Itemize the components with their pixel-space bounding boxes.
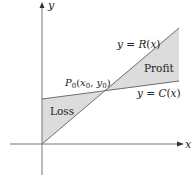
break-even-diagram: y x y = R(x) y = C(x) Profit Loss P0(x0,… <box>0 0 192 180</box>
y-axis-arrow-icon <box>40 2 45 8</box>
y-axis-label: y <box>47 0 55 12</box>
cost-label: y = C(x) <box>136 87 181 99</box>
revenue-label: y = R(x) <box>116 38 160 50</box>
profit-label: Profit <box>144 62 174 74</box>
x-axis-arrow-icon <box>177 142 184 147</box>
intersection-point-label: P0(x0, y0) <box>64 77 111 90</box>
x-axis-label: x <box>185 138 192 151</box>
loss-label: Loss <box>50 105 74 117</box>
